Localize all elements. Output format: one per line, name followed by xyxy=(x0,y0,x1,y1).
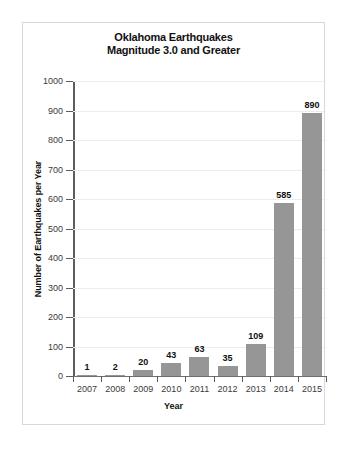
bar-slot-2009: 202009 xyxy=(129,81,157,376)
bar-value-2012: 35 xyxy=(223,353,233,363)
x-axis-title: Year xyxy=(23,401,324,411)
x-tick-label-2015: 2015 xyxy=(302,384,322,394)
x-tick-2 xyxy=(129,376,130,382)
x-tick-label-2008: 2008 xyxy=(105,384,125,394)
y-tick-600 xyxy=(66,199,73,200)
bar-value-2009: 20 xyxy=(138,357,148,367)
chart-title: Oklahoma Earthquakes Magnitude 3.0 and G… xyxy=(23,31,324,57)
y-tick-300 xyxy=(66,288,73,289)
y-tick-label-800: 800 xyxy=(48,135,63,145)
x-tick-1 xyxy=(101,376,102,382)
bar-2014[interactable] xyxy=(274,203,294,376)
x-tick-label-2013: 2013 xyxy=(246,384,266,394)
y-tick-label-400: 400 xyxy=(48,253,63,263)
bar-slot-2007: 12007 xyxy=(73,81,101,376)
y-tick-label-0: 0 xyxy=(58,371,63,381)
bar-2015[interactable] xyxy=(302,113,322,376)
y-tick-label-900: 900 xyxy=(48,106,63,116)
x-tick-label-2007: 2007 xyxy=(77,384,97,394)
x-tick-0 xyxy=(73,376,74,382)
x-tick-label-2012: 2012 xyxy=(218,384,238,394)
bar-2008[interactable] xyxy=(105,375,125,376)
x-tick-label-2014: 2014 xyxy=(274,384,294,394)
y-axis-title-label: Number of Earthquakes per Year xyxy=(33,160,43,296)
x-tick-5 xyxy=(214,376,215,382)
y-tick-label-200: 200 xyxy=(48,312,63,322)
x-axis-title-label: Year xyxy=(164,401,183,411)
bar-value-2013: 109 xyxy=(248,331,263,341)
y-tick-500 xyxy=(66,229,73,230)
bar-2009[interactable] xyxy=(133,370,153,376)
bar-slot-2014: 5852014 xyxy=(270,81,298,376)
y-tick-label-1000: 1000 xyxy=(43,76,63,86)
chart-figure: Oklahoma Earthquakes Magnitude 3.0 and G… xyxy=(22,22,325,425)
bar-value-2011: 63 xyxy=(194,344,204,354)
bar-value-2010: 43 xyxy=(166,350,176,360)
bar-2012[interactable] xyxy=(218,366,238,376)
y-tick-label-500: 500 xyxy=(48,224,63,234)
bar-slot-2012: 352012 xyxy=(214,81,242,376)
y-tick-100 xyxy=(66,347,73,348)
bar-value-2007: 1 xyxy=(85,362,90,372)
bar-value-2015: 890 xyxy=(304,100,319,110)
bar-2007[interactable] xyxy=(77,375,97,376)
bar-slot-2015: 8902015 xyxy=(298,81,326,376)
y-tick-800 xyxy=(66,140,73,141)
plot-area: 01002003004005006007008009001000 1200722… xyxy=(73,81,326,376)
y-tick-0 xyxy=(66,376,73,377)
y-axis-title: Number of Earthquakes per Year xyxy=(31,81,45,376)
y-tick-400 xyxy=(66,258,73,259)
y-tick-900 xyxy=(66,111,73,112)
x-tick-8 xyxy=(298,376,299,382)
x-tick-label-2011: 2011 xyxy=(190,384,209,394)
bar-value-2008: 2 xyxy=(113,362,118,372)
x-tick-3 xyxy=(157,376,158,382)
chart-title-line-1: Oklahoma Earthquakes xyxy=(23,31,324,44)
x-tick-label-2009: 2009 xyxy=(133,384,153,394)
gridline-0 xyxy=(73,376,326,377)
bar-slot-2011: 632011 xyxy=(185,81,213,376)
bar-slot-2010: 432010 xyxy=(157,81,185,376)
x-tick-label-2010: 2010 xyxy=(161,384,181,394)
bar-2013[interactable] xyxy=(246,344,266,376)
y-tick-200 xyxy=(66,317,73,318)
y-tick-label-700: 700 xyxy=(48,165,63,175)
x-tick-7 xyxy=(270,376,271,382)
y-tick-label-300: 300 xyxy=(48,283,63,293)
y-tick-1000 xyxy=(66,81,73,82)
bar-2010[interactable] xyxy=(161,363,181,376)
chart-title-line-2: Magnitude 3.0 and Greater xyxy=(23,44,324,57)
bar-value-2014: 585 xyxy=(276,190,291,200)
bar-slot-2013: 1092013 xyxy=(242,81,270,376)
x-tick-4 xyxy=(185,376,186,382)
y-tick-label-100: 100 xyxy=(48,342,63,352)
x-tick-9 xyxy=(326,376,327,382)
bar-slot-2008: 22008 xyxy=(101,81,129,376)
y-tick-label-600: 600 xyxy=(48,194,63,204)
x-tick-6 xyxy=(242,376,243,382)
bar-2011[interactable] xyxy=(189,357,209,376)
y-tick-700 xyxy=(66,170,73,171)
